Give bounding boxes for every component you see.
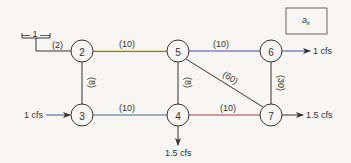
svg-text:2: 2	[79, 47, 85, 58]
legend-label: ak	[302, 15, 311, 26]
reservoir-1: 1	[22, 29, 50, 39]
pipe-label-5-6: (10)	[213, 39, 229, 49]
svg-text:6: 6	[268, 47, 274, 58]
pipe-label-6-7: (30)	[276, 75, 286, 91]
node-5: 5	[167, 40, 189, 62]
node-4: 4	[167, 104, 189, 126]
pipe-label-1-2: (2)	[52, 40, 63, 50]
pipe-label-4-7: (10)	[220, 103, 236, 113]
legend-box: ak	[286, 8, 327, 34]
reservoir-label: 1	[32, 29, 37, 39]
node-3: 3	[71, 104, 93, 126]
svg-text:5: 5	[175, 47, 181, 58]
outflow-label-7: 1.5 cfs	[306, 110, 333, 120]
svg-text:4: 4	[175, 111, 181, 122]
pipe-label-2-3: (8)	[87, 77, 97, 88]
pipe-label-5-7: (60)	[221, 69, 240, 86]
nodes: 2 5 6 3 4 7	[71, 40, 282, 126]
pipe-label-5-4: (8)	[183, 77, 193, 88]
pipe-label-2-5: (10)	[119, 39, 135, 49]
inflow-label-3: 1 cfs	[24, 110, 44, 120]
node-7: 7	[260, 104, 282, 126]
flow-arrows: 1 cfs 1 cfs 1.5 cfs 1.5 cfs	[24, 46, 333, 158]
outflow-label-6: 1 cfs	[313, 46, 333, 56]
pipe-5-7	[186, 59, 263, 107]
pipe-network-diagram: ak 1 (2) (10) (10) (8) (8) (60) (30) (10…	[0, 0, 351, 163]
outflow-label-4: 1.5 cfs	[165, 148, 192, 158]
svg-text:3: 3	[79, 111, 85, 122]
svg-text:7: 7	[268, 111, 274, 122]
node-2: 2	[71, 40, 93, 62]
pipe-label-3-4: (10)	[119, 103, 135, 113]
node-6: 6	[260, 40, 282, 62]
